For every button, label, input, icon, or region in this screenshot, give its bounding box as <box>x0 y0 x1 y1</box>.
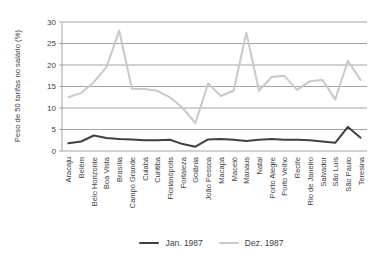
x-category-label: Maceió <box>230 157 239 181</box>
x-category-label: Recife <box>293 157 302 178</box>
legend-item-dez-1987: Dez. 1987 <box>219 238 284 248</box>
x-category-label: Fortaleza <box>179 156 188 188</box>
y-tick-label: 15 <box>47 82 56 91</box>
x-category-label: Macapá <box>217 156 226 184</box>
x-category-label: Manaus <box>242 157 251 184</box>
x-category-label: São Paulo <box>344 157 353 192</box>
x-category-label: Belém <box>77 157 86 178</box>
x-category-label: Salvador <box>319 157 328 187</box>
x-category-label: Teresina <box>357 156 366 185</box>
x-category-label: Porto Velho <box>280 157 289 196</box>
series-line-dez-1987 <box>68 31 360 123</box>
x-category-label: Natal <box>255 157 264 175</box>
x-category-label: João Pessoa <box>204 156 213 200</box>
legend-item-jan-1987: Jan. 1987 <box>139 238 202 248</box>
x-category-label: Aracaju <box>64 157 73 182</box>
x-category-label: Belo Horizonte <box>90 157 99 206</box>
y-tick-label: 5 <box>52 125 57 134</box>
x-category-label: Boa Vista <box>102 156 111 189</box>
y-tick-label: 25 <box>47 39 56 48</box>
legend: Jan. 1987 Dez. 1987 <box>0 238 381 248</box>
y-tick-label: 0 <box>52 147 57 156</box>
x-category-label: Cuiabá <box>141 156 150 181</box>
x-category-label: Campo Grande <box>128 157 137 208</box>
x-category-label: Brasília <box>115 156 124 182</box>
x-category-label: Rio de Janeiro <box>306 157 315 205</box>
legend-label-jan-1987: Jan. 1987 <box>165 238 202 248</box>
x-category-label: Curitiba <box>153 156 162 183</box>
legend-label-dez-1987: Dez. 1987 <box>245 238 284 248</box>
y-tick-label: 20 <box>47 61 56 70</box>
dez-1987-line-swatch <box>219 242 239 244</box>
plot-area: 051015202530AracajuBelémBelo HorizonteBo… <box>0 0 381 262</box>
x-category-label: Goiânia <box>191 156 200 183</box>
x-category-label: Porto Alegre <box>268 157 277 198</box>
x-category-label: Florianópolis <box>166 157 175 200</box>
y-tick-label: 10 <box>47 104 56 113</box>
y-tick-label: 30 <box>47 18 56 27</box>
chart-panel: Peso de 50 tarifas no salário (%) 051015… <box>0 0 381 262</box>
x-category-label: São Luís <box>331 157 340 187</box>
jan-1987-line-swatch <box>139 242 159 244</box>
